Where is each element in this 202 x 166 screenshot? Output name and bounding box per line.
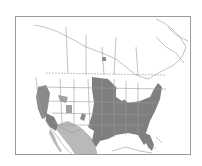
- dark-range-westcoast: [36, 85, 50, 119]
- dark-range-california: [46, 113, 58, 131]
- north-america-map: [16, 17, 191, 155]
- dark-range-florida: [144, 133, 154, 151]
- dark-range-east: [88, 77, 162, 147]
- light-range-interior-west: [58, 95, 72, 113]
- range-map: [15, 16, 191, 155]
